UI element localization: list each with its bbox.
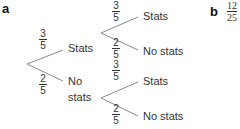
tree-branches <box>0 0 240 129</box>
prob-l2a-upper: 3 5 <box>112 1 120 22</box>
numerator: 12 <box>227 0 237 11</box>
branch-l2b-upper <box>101 82 138 98</box>
outcome-l2b-no-stats: No stats <box>143 110 183 122</box>
part-b-answer: 12 25 <box>227 1 237 22</box>
numerator: 3 <box>113 0 119 11</box>
denominator: 25 <box>227 12 237 23</box>
denominator: 5 <box>113 71 119 82</box>
numerator: 2 <box>113 37 119 48</box>
outcome-l2a-no-stats: No stats <box>143 45 183 57</box>
numerator: 3 <box>40 28 46 39</box>
prob-l1-lower: 2 5 <box>39 74 47 95</box>
numerator: 2 <box>40 73 46 84</box>
numerator: 2 <box>113 103 119 114</box>
branch-l1-upper <box>27 50 63 64</box>
prob-l2a-lower: 2 5 <box>112 38 120 59</box>
numerator: 3 <box>113 59 119 70</box>
prob-l2b-lower: 2 5 <box>112 104 120 125</box>
prob-l2b-upper: 3 5 <box>112 60 120 81</box>
denominator: 5 <box>113 115 119 126</box>
prob-l1-upper: 3 5 <box>39 29 47 50</box>
denominator: 5 <box>113 12 119 23</box>
outcome-l1-stats: Stats <box>68 42 93 54</box>
part-a-label: a <box>2 1 9 16</box>
outcome-l1-stats-word: stats <box>68 91 91 103</box>
outcome-l1-no: No <box>68 75 82 87</box>
denominator: 5 <box>40 40 46 51</box>
denominator: 5 <box>40 85 46 96</box>
outcome-l2a-stats: Stats <box>143 10 168 22</box>
outcome-l2b-stats: Stats <box>143 75 168 87</box>
part-b-label: b <box>210 4 218 19</box>
